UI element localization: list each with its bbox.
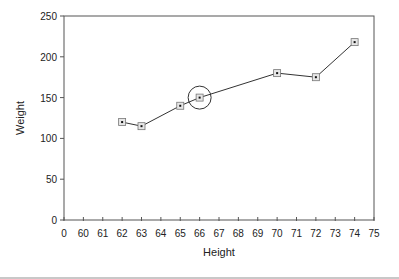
x-tick-label: 66 xyxy=(194,228,206,239)
x-tick-label: 62 xyxy=(117,228,129,239)
x-tick-label: 69 xyxy=(252,228,264,239)
x-tick-label: 67 xyxy=(213,228,225,239)
y-tick-label: 250 xyxy=(40,11,57,22)
x-tick-label: 72 xyxy=(310,228,322,239)
y-tick-label: 150 xyxy=(40,93,57,104)
y-axis-title: Weight xyxy=(14,101,26,135)
x-tick-label: 63 xyxy=(136,228,148,239)
y-tick-label: 100 xyxy=(40,133,57,144)
x-tick-label: 71 xyxy=(291,228,303,239)
x-tick-label: 60 xyxy=(78,228,90,239)
y-tick-label: 0 xyxy=(51,215,57,226)
x-tick-label: 68 xyxy=(233,228,245,239)
plot-area xyxy=(64,16,374,220)
x-tick-label: 0 xyxy=(61,228,67,239)
y-tick-label: 50 xyxy=(46,174,58,185)
x-tick-label: 65 xyxy=(175,228,187,239)
y-tick-label: 200 xyxy=(40,52,57,63)
x-tick-label: 61 xyxy=(97,228,109,239)
x-tick-label: 70 xyxy=(272,228,284,239)
x-tick-label: 64 xyxy=(155,228,167,239)
x-tick-label: 73 xyxy=(330,228,342,239)
data-series xyxy=(119,39,359,130)
x-axis-title: Height xyxy=(203,246,235,258)
y-axis: 050100150200250 xyxy=(40,11,64,226)
x-tick-label: 74 xyxy=(349,228,361,239)
x-tick-label: 75 xyxy=(368,228,380,239)
line-chart: 050100150200250 060616263646566676869707… xyxy=(0,0,399,279)
